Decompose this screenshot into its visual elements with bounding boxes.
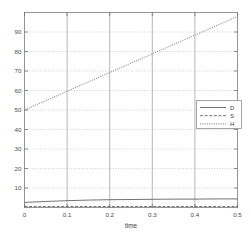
x-tick-label: 0: [23, 211, 27, 218]
x-tick-label: 0.3: [148, 211, 157, 218]
x-tick-label: 0.5: [233, 211, 242, 218]
legend-label-H: H: [230, 121, 234, 127]
y-tick-label: 80: [15, 48, 22, 55]
y-tick-label: 20: [15, 165, 22, 172]
line-chart: 102030405060708090 00.10.20.30.40.5 time…: [0, 0, 251, 235]
y-tick-label: 90: [15, 28, 22, 35]
y-tick-label: 60: [15, 87, 22, 94]
x-tick-label: 0.1: [63, 211, 72, 218]
y-tick-label: 30: [15, 145, 22, 152]
legend-label-S: S: [230, 113, 234, 119]
x-axis-title: time: [125, 222, 138, 229]
y-tick-label: 10: [15, 184, 22, 191]
chart-legend[interactable]: DSH: [197, 101, 242, 129]
y-tick-label: 70: [15, 67, 22, 74]
figure-canvas: 102030405060708090 00.10.20.30.40.5 time…: [0, 0, 251, 235]
y-tick-label: 40: [15, 126, 22, 133]
x-tick-label: 0.4: [191, 211, 200, 218]
y-tick-label: 50: [15, 106, 22, 113]
legend-label-D: D: [230, 105, 235, 111]
x-tick-label: 0.2: [105, 211, 114, 218]
y-tick-labels: 102030405060708090: [15, 28, 22, 191]
